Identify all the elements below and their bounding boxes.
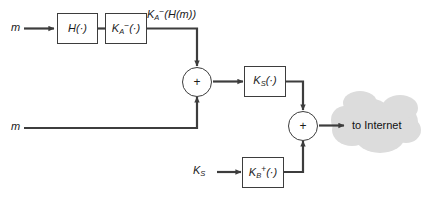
private-key-sign-box[interactable]: KA−(·) xyxy=(105,13,147,44)
edge-kb-to-adder2 xyxy=(283,141,303,172)
public-key-arg: (·) xyxy=(266,166,277,178)
concat-adder-1[interactable]: + xyxy=(182,67,212,97)
public-key-encrypt-label: KB+(·) xyxy=(249,165,277,179)
symmetric-key-base: K xyxy=(253,74,260,86)
session-key-subscript: S xyxy=(200,169,205,178)
input-label-message-top: m xyxy=(11,22,20,33)
symmetric-key-arg: (·) xyxy=(266,74,277,86)
edge-m-bottom-to-adder1 xyxy=(24,97,197,128)
sign-key-arg: (·) xyxy=(129,22,140,34)
symmetric-encrypt-box[interactable]: KS(·) xyxy=(244,66,286,97)
hash-function-label: H(·) xyxy=(68,23,87,34)
public-key-encrypt-box[interactable]: KB+(·) xyxy=(242,157,284,188)
symmetric-encrypt-label: KS(·) xyxy=(253,75,276,88)
signature-key-argument: (H(m)) xyxy=(164,8,196,20)
adder-2-symbol: + xyxy=(299,119,306,133)
hash-arg: (·) xyxy=(76,22,87,34)
input-label-session-key: KS xyxy=(193,165,205,178)
adder-1-symbol: + xyxy=(193,75,200,89)
edge-signature-to-adder1 xyxy=(146,29,197,67)
signature-output-label: KA−(H(m)) xyxy=(147,7,196,21)
hash-base: H xyxy=(68,22,76,34)
diagram-canvas: m m KS KA−(H(m)) H(·) KA−(·) KS(·) KB+(·… xyxy=(0,0,426,203)
input-label-message-bottom: m xyxy=(11,121,20,132)
private-key-sign-label: KA−(·) xyxy=(112,21,140,35)
hash-function-box[interactable]: H(·) xyxy=(57,13,98,44)
internet-destination-label: to Internet xyxy=(352,119,402,131)
concat-adder-2[interactable]: + xyxy=(288,111,318,141)
edge-ks-to-adder2 xyxy=(285,82,303,111)
